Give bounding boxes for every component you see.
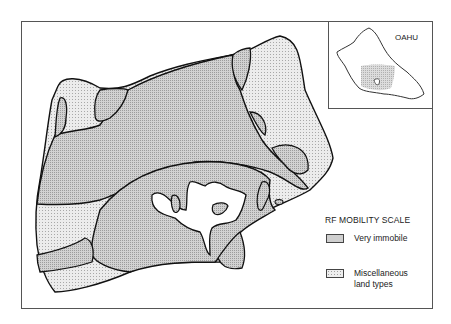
dense-stipple-swatch-icon <box>326 234 344 243</box>
light-stipple-swatch-icon <box>326 269 344 278</box>
legend-title: RF MOBILITY SCALE <box>325 215 410 225</box>
legend-item-very-immobile: Very immobile <box>326 233 424 244</box>
legend-label: Very immobile <box>354 233 424 244</box>
region-center-small-2 <box>171 195 180 212</box>
legend-label: Miscellaneous land types <box>354 268 424 290</box>
legend-item-miscellaneous: Miscellaneous land types <box>326 268 424 290</box>
tiny-region <box>275 200 283 205</box>
inset-label: OAHU <box>395 33 418 42</box>
